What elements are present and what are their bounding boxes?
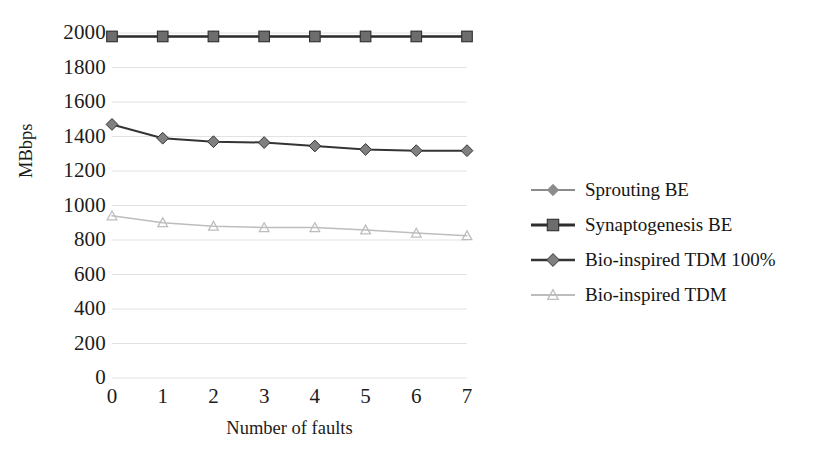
data-point-marker [208, 31, 219, 42]
diamond-marker-icon [530, 250, 576, 270]
legend-item[interactable]: Bio-inspired TDM [530, 277, 830, 312]
y-tick-label: 1400 [40, 126, 106, 147]
triangle-marker-icon [530, 285, 576, 305]
data-point-marker [360, 31, 371, 42]
legend-item-label: Sprouting BE [576, 180, 689, 200]
x-tick-label: 1 [143, 386, 183, 407]
data-point-marker [258, 137, 270, 149]
data-point-marker [310, 31, 321, 42]
y-tick-label: 1800 [40, 57, 106, 78]
x-axis-title: Number of faults [112, 418, 467, 439]
legend-item[interactable]: Bio-inspired TDM 100% [530, 242, 830, 277]
x-tick-label: 2 [193, 386, 233, 407]
data-point-marker [157, 132, 169, 144]
x-tick-label: 0 [92, 386, 132, 407]
legend-item-label: Bio-inspired TDM [576, 285, 727, 305]
data-point-marker [259, 31, 270, 42]
x-tick-label: 6 [396, 386, 436, 407]
y-tick-label: 200 [40, 333, 106, 354]
legend-item-label: Synaptogenesis BE [576, 215, 732, 235]
legend-item[interactable]: Synaptogenesis BE [530, 207, 830, 242]
y-axis-title: MBbps [16, 124, 37, 179]
data-point-marker [547, 184, 558, 195]
x-tick-label: 7 [447, 386, 487, 407]
x-tick-label: 4 [295, 386, 335, 407]
data-point-marker [462, 31, 473, 42]
x-tick-label: 5 [346, 386, 386, 407]
data-point-marker [106, 119, 118, 131]
data-point-marker [208, 136, 220, 148]
data-point-marker [411, 31, 422, 42]
data-point-marker [107, 31, 118, 42]
plot-area [112, 33, 467, 378]
square-marker-icon [530, 215, 576, 235]
y-tick-label: 600 [40, 264, 106, 285]
chart-figure: 0200400600800100012001400160018002000 MB… [0, 0, 833, 470]
legend-item[interactable]: Sprouting BE [530, 172, 830, 207]
chart-canvas [112, 33, 467, 378]
data-point-marker [157, 31, 168, 42]
y-tick-label: 0 [40, 367, 106, 388]
y-tick-label: 2000 [40, 22, 106, 43]
series-bio-inspired-tdm [107, 211, 472, 240]
x-axis-tick-labels: 01234567 [112, 386, 467, 414]
y-tick-label: 1200 [40, 160, 106, 181]
legend-item-label: Bio-inspired TDM 100% [576, 250, 776, 270]
diamond-marker-icon [530, 180, 576, 200]
data-point-marker [461, 145, 473, 157]
series-bio-inspired-tdm-100- [106, 119, 473, 157]
x-tick-label: 3 [244, 386, 284, 407]
data-point-marker [410, 145, 422, 157]
data-point-marker [547, 219, 558, 230]
y-tick-label: 400 [40, 298, 106, 319]
data-point-marker [309, 140, 321, 152]
y-tick-label: 1000 [40, 195, 106, 216]
data-point-marker [547, 253, 560, 266]
chart-legend: Sprouting BESynaptogenesis BEBio-inspire… [530, 172, 830, 312]
data-point-marker [360, 144, 372, 156]
y-tick-label: 800 [40, 229, 106, 250]
y-tick-label: 1600 [40, 91, 106, 112]
